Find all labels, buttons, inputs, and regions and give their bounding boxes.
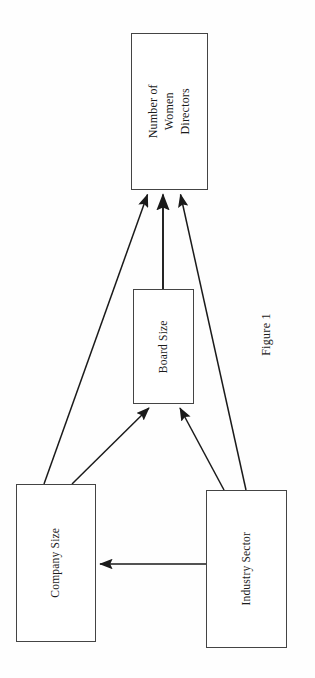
node-number-of-women-directors: Number of Women Directors <box>131 33 208 190</box>
node-label-women-directors: Number of Women Directors <box>145 74 194 149</box>
node-company-size: Company Size <box>16 484 96 642</box>
edge-industry-sector-to-board-size <box>180 408 224 490</box>
edge-company-size-to-board-size <box>72 408 149 484</box>
figure-caption: Figure 1 <box>238 296 294 372</box>
edge-company-size-to-women-directors <box>44 195 148 485</box>
node-industry-sector: Industry Sector <box>206 490 287 648</box>
node-board-size: Board Size <box>133 289 194 404</box>
figure-caption-text: Figure 1 <box>258 313 273 356</box>
node-label-company-size: Company Size <box>48 528 64 598</box>
figure-diagram: Number of Women Directors Board Size Com… <box>0 0 315 678</box>
node-label-industry-sector: Industry Sector <box>239 532 255 606</box>
node-label-board-size: Board Size <box>156 320 172 373</box>
